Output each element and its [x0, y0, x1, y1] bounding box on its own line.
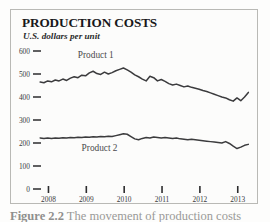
y-tick-label: 400 [19, 93, 30, 102]
figure-caption-text: Figure 2.2 The movement of production co… [10, 209, 241, 222]
chart-screenshot: PRODUCTION COSTS U.S. dollars per unit 0… [0, 0, 270, 222]
series-label-product-1: Product 1 [78, 50, 114, 60]
caption-body: The movement of production costs [67, 209, 241, 222]
series-line-product-1 [40, 68, 248, 101]
x-axis: 200820092010201120122013 [41, 186, 245, 204]
series-label-product-2: Product 2 [82, 143, 118, 153]
series-line-product-2 [40, 134, 248, 149]
x-tick-label: 2013 [230, 195, 245, 204]
y-tick-label: 500 [19, 70, 30, 79]
y-tick-label: 300 [19, 116, 30, 125]
figure-frame: PRODUCTION COSTS U.S. dollars per unit 0… [10, 9, 258, 204]
line-chart-plot: 0100200300400500600 20082009201020112012… [11, 10, 259, 205]
x-tick-label: 2010 [117, 195, 132, 204]
y-tick-label: 0 [26, 185, 30, 194]
y-tick-label: 600 [19, 47, 30, 56]
x-tick-label: 2008 [41, 195, 56, 204]
caption-number: Figure 2.2 [10, 209, 64, 222]
figure-caption-cropped: Figure 2.2 The movement of production co… [0, 209, 270, 222]
y-axis: 0100200300400500600 [19, 47, 41, 194]
y-tick-label: 200 [19, 139, 30, 148]
series-lines [40, 68, 248, 149]
x-tick-label: 2012 [193, 195, 208, 204]
x-tick-label: 2009 [79, 195, 94, 204]
y-tick-label: 100 [19, 162, 30, 171]
x-tick-label: 2011 [155, 195, 170, 204]
